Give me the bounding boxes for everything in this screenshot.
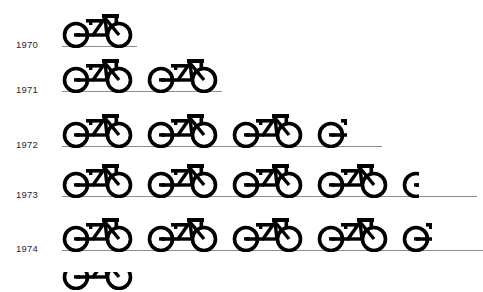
bicycle-icon [317, 212, 393, 252]
bicycle-icon [232, 108, 308, 148]
bicycle-icon-cropped-bottom [62, 272, 138, 292]
bicycle-icon [62, 8, 138, 48]
bicycle-icon [147, 158, 223, 198]
bicycle-icon-partial [402, 158, 419, 198]
bicycle-icon [147, 53, 223, 93]
year-axis-label: 1972 [16, 139, 58, 150]
bicycle-icon [62, 53, 138, 93]
pictogram-chart: 1970 1971 [0, 0, 483, 292]
year-axis-label: 1970 [16, 39, 58, 50]
year-axis-label: 1973 [16, 189, 58, 200]
bicycle-icon [232, 212, 308, 252]
bicycle-icon [147, 212, 223, 252]
year-axis-label: 1974 [16, 243, 58, 254]
bicycle-icon [62, 108, 138, 148]
bicycle-icon [62, 212, 138, 252]
bicycle-icon [62, 158, 138, 198]
bicycle-icon-partial [317, 108, 347, 148]
bicycle-icon-partial [402, 212, 432, 252]
bicycle-icon [232, 158, 308, 198]
year-axis-label: 1971 [16, 84, 58, 95]
bicycle-icon [147, 108, 223, 148]
bicycle-icon [317, 158, 393, 198]
